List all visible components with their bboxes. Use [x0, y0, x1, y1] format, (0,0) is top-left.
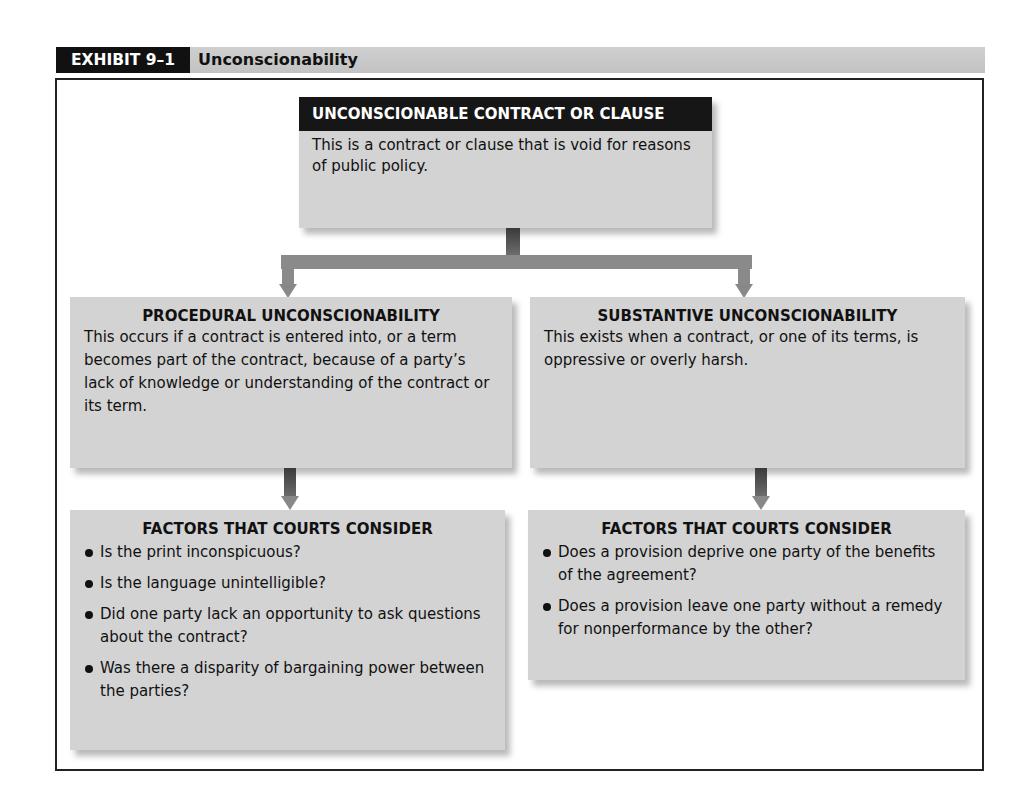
top-stem-connector — [506, 228, 520, 256]
arrow-down-icon — [752, 496, 770, 510]
procedural-factors-heading: FACTORS THAT COURTS CONSIDER — [84, 519, 491, 539]
unconscionable-contract-heading: UNCONSCIONABLE CONTRACT OR CLAUSE — [299, 97, 712, 131]
exhibit-title: Unconscionability — [198, 47, 358, 73]
substantive-text: This exists when a contract, or one of i… — [544, 326, 951, 372]
procedural-text: This occurs if a contract is entered int… — [84, 326, 498, 418]
exhibit-badge: EXHIBIT 9–1 — [56, 47, 190, 73]
arrow-down-icon — [735, 284, 753, 298]
procedural-unconscionability-box: PROCEDURAL UNCONSCIONABILITY This occurs… — [70, 297, 512, 468]
procedural-stem-connector — [284, 468, 296, 498]
factor-item: Is the language unintelligible? — [84, 572, 491, 595]
procedural-factors-box: FACTORS THAT COURTS CONSIDER Is the prin… — [70, 510, 505, 750]
arrow-down-icon — [281, 496, 299, 510]
substantive-factors-heading: FACTORS THAT COURTS CONSIDER — [542, 519, 951, 539]
factor-item: Was there a disparity of bargaining powe… — [84, 657, 491, 703]
left-drop-connector — [282, 269, 294, 285]
factor-item: Is the print inconspicuous? — [84, 541, 491, 564]
factor-item: Did one party lack an opportunity to ask… — [84, 603, 491, 649]
substantive-factors-box: FACTORS THAT COURTS CONSIDER Does a prov… — [528, 510, 965, 680]
substantive-stem-connector — [755, 468, 767, 498]
exhibit-title-bar: EXHIBIT 9–1 Unconscionability — [56, 47, 985, 73]
procedural-factors-list: Is the print inconspicuous? Is the langu… — [84, 541, 491, 703]
factor-item: Does a provision leave one party without… — [542, 595, 951, 641]
right-drop-connector — [738, 269, 750, 285]
unconscionable-contract-box: UNCONSCIONABLE CONTRACT OR CLAUSE This i… — [299, 97, 712, 228]
split-bar-connector — [281, 255, 752, 269]
substantive-unconscionability-box: SUBSTANTIVE UNCONSCIONABILITY This exist… — [530, 297, 965, 468]
substantive-factors-list: Does a provision deprive one party of th… — [542, 541, 951, 641]
substantive-heading: SUBSTANTIVE UNCONSCIONABILITY — [544, 306, 951, 326]
factor-item: Does a provision deprive one party of th… — [542, 541, 951, 587]
unconscionable-contract-text: This is a contract or clause that is voi… — [299, 131, 712, 177]
procedural-heading: PROCEDURAL UNCONSCIONABILITY — [84, 306, 498, 326]
arrow-down-icon — [279, 284, 297, 298]
